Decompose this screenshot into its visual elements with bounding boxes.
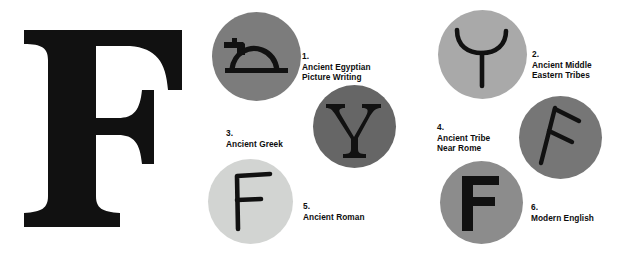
egyptian-horned-viper-hieroglyph xyxy=(212,12,301,101)
stage-caption-2: 2. Ancient Middle Eastern Tribes xyxy=(532,39,631,81)
stage-label-4: Ancient Tribe Near Rome xyxy=(437,133,490,153)
greek-upsilon-serif-y xyxy=(313,85,396,168)
stage-number-2: 2. xyxy=(532,49,539,59)
stage-circle-4 xyxy=(519,96,602,179)
stage-number-3: 3. xyxy=(226,128,233,138)
stage-number-4: 4. xyxy=(437,122,444,132)
stage-number-5: 5. xyxy=(303,201,310,211)
modern-english-f xyxy=(440,161,523,244)
stage-circle-2 xyxy=(438,10,527,99)
stage-circle-6 xyxy=(440,161,523,244)
stage-circle-3 xyxy=(313,85,396,168)
hero-letter-f-glyph xyxy=(18,26,188,231)
stage-label-3: Ancient Greek xyxy=(226,139,283,149)
stage-label-1: Ancient Egyptian Picture Writing xyxy=(302,62,371,82)
stage-number-6: 6. xyxy=(531,202,538,212)
stage-label-6: Modern English xyxy=(531,213,594,223)
stage-label-2: Ancient Middle Eastern Tribes xyxy=(532,60,592,80)
letter-evolution-figure: 1. Ancient Egyptian Picture Writing 2. A… xyxy=(0,0,631,255)
stage-caption-6: 6. Modern English xyxy=(531,192,631,223)
stage-circle-1 xyxy=(212,12,301,101)
etruscan-digamma-f xyxy=(519,96,602,179)
stage-caption-5: 5. Ancient Roman xyxy=(303,191,413,222)
stage-label-5: Ancient Roman xyxy=(303,212,365,222)
stage-caption-1: 1. Ancient Egyptian Picture Writing xyxy=(302,41,406,83)
hero-letter-f xyxy=(0,0,200,255)
proto-sinaitic-waw-y xyxy=(438,10,527,99)
stage-number-1: 1. xyxy=(302,51,309,61)
roman-capital-f xyxy=(208,159,293,244)
stage-circle-5 xyxy=(208,159,293,244)
